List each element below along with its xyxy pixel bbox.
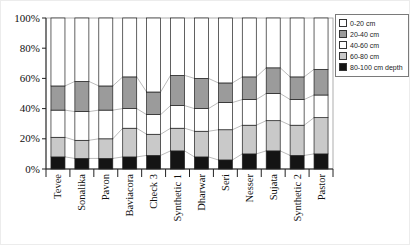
bar-segment-40-60-cm [99, 110, 113, 139]
bar-segment-0-20-cm [290, 18, 304, 77]
category-label: Sujata [268, 174, 279, 201]
series-line [161, 151, 171, 156]
category-label: Baviacora [124, 174, 135, 217]
bar-segment-80-100-cm-depth [266, 151, 280, 169]
series-line [65, 110, 75, 112]
series-line [65, 157, 75, 159]
y-tick-label: 40% [20, 102, 40, 114]
series-line [208, 78, 218, 83]
series-line [232, 77, 242, 83]
series-line [185, 106, 195, 109]
bar-segment-0-20-cm [194, 18, 208, 78]
bar-segment-60-80-cm [314, 118, 328, 154]
series-line [280, 94, 290, 100]
bar-segment-60-80-cm [218, 130, 232, 160]
bar-segment-0-20-cm [242, 18, 256, 77]
bar-segment-80-100-cm-depth [314, 154, 328, 169]
bar-segment-40-60-cm [314, 95, 328, 118]
bar-segment-60-80-cm [242, 125, 256, 154]
legend-swatch-icon [339, 41, 347, 49]
bar-segment-20-40-cm [123, 77, 137, 109]
bar-segment-20-40-cm [290, 77, 304, 100]
bar-segment-60-80-cm [290, 125, 304, 155]
bar-segment-20-40-cm [242, 77, 256, 100]
series-line [256, 121, 266, 126]
chart-legend: 0-20 cm20-40 cm40-60 cm60-80 cm80-100 cm… [335, 14, 409, 77]
series-line [304, 69, 314, 77]
legend-swatch-icon [339, 52, 347, 60]
legend-label: 60-80 cm [350, 53, 379, 60]
series-line [208, 157, 218, 160]
legend-label: 40-60 cm [350, 42, 379, 49]
bar-segment-40-60-cm [194, 109, 208, 132]
legend-swatch-icon [339, 30, 347, 38]
bar-segment-80-100-cm-depth [171, 151, 185, 169]
series-line [304, 154, 314, 156]
legend-item: 0-20 cm [339, 19, 406, 27]
series-line [280, 68, 290, 77]
series-line [208, 103, 218, 109]
bar-segment-60-80-cm [99, 139, 113, 159]
series-line [304, 118, 314, 126]
series-line [89, 110, 99, 112]
bar-segment-0-20-cm [218, 18, 232, 83]
series-line [113, 128, 123, 139]
legend-label: 20-40 cm [350, 31, 379, 38]
series-line [185, 75, 195, 78]
series-line [256, 94, 266, 100]
bar-segment-0-20-cm [266, 18, 280, 68]
category-label: Synthetic 2 [292, 174, 303, 222]
series-line [137, 155, 147, 157]
series-line [161, 128, 171, 134]
y-tick-label: 60% [20, 72, 40, 84]
bar-segment-60-80-cm [266, 121, 280, 151]
series-line [256, 151, 266, 154]
bar-segment-20-40-cm [266, 68, 280, 94]
bar-segment-40-60-cm [218, 103, 232, 130]
series-line [113, 77, 123, 86]
y-tick-label: 100% [14, 12, 40, 24]
bar-segment-40-60-cm [171, 106, 185, 129]
legend-item: 60-80 cm [339, 52, 406, 60]
category-label: Dharwar [196, 174, 207, 211]
bar-segment-20-40-cm [147, 92, 161, 115]
category-label: Check 3 [148, 174, 159, 209]
legend-item: 20-40 cm [339, 30, 406, 38]
bar-segment-20-40-cm [218, 83, 232, 103]
bar-segment-20-40-cm [194, 78, 208, 108]
category-label: Sonalika [76, 174, 87, 211]
series-line [280, 151, 290, 156]
series-line [304, 95, 314, 100]
bar-segment-0-20-cm [147, 18, 161, 92]
legend-item: 80-100 cm depth [339, 63, 406, 71]
series-line [65, 137, 75, 140]
chart-figure: 0%20%40%60%80%100%TeveeSonalikaPavonBavi… [0, 0, 410, 245]
bar-segment-80-100-cm-depth [242, 154, 256, 169]
bar-segment-60-80-cm [171, 128, 185, 151]
series-line [113, 157, 123, 159]
series-line [232, 125, 242, 130]
bar-segment-60-80-cm [123, 128, 137, 157]
bar-segment-80-100-cm-depth [147, 155, 161, 169]
category-label: Pavon [100, 173, 111, 200]
bar-segment-80-100-cm-depth [75, 158, 89, 169]
series-line [185, 151, 195, 157]
bar-segment-20-40-cm [75, 81, 89, 111]
bar-segment-0-20-cm [314, 18, 328, 69]
legend-item: 40-60 cm [339, 41, 406, 49]
bar-segment-40-60-cm [123, 109, 137, 129]
bar-segment-40-60-cm [147, 115, 161, 135]
y-tick-label: 80% [20, 42, 40, 54]
series-line [280, 121, 290, 126]
bar-segment-0-20-cm [75, 18, 89, 81]
category-label: Tevee [52, 174, 63, 199]
bar-segment-60-80-cm [51, 137, 65, 157]
series-line [89, 81, 99, 86]
bar-segment-40-60-cm [290, 100, 304, 126]
bar-segment-60-80-cm [194, 131, 208, 157]
bar-segment-60-80-cm [147, 134, 161, 155]
bar-segment-0-20-cm [51, 18, 65, 86]
series-line [113, 109, 123, 111]
series-line [208, 130, 218, 132]
series-line [137, 109, 147, 115]
